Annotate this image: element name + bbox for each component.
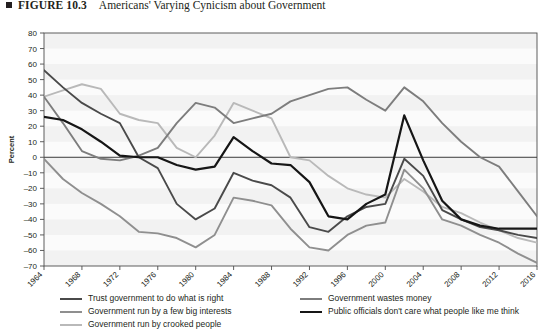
- x-axis-tick-label: 2016: [518, 270, 537, 289]
- legend-color-swatch: [300, 311, 322, 313]
- legend-item: Trust government to do what is right: [60, 292, 232, 305]
- legend-item: Public officials don't care what people …: [300, 305, 519, 318]
- legend-color-swatch: [300, 298, 322, 300]
- legend-column-right: Government wastes moneyPublic officials …: [300, 292, 519, 318]
- legend-column-left: Trust government to do what is rightGove…: [60, 292, 232, 331]
- legend-item: Government run by crooked people: [60, 318, 232, 331]
- x-axis-tick-label: 1992: [291, 270, 310, 289]
- y-axis-title: Percent: [7, 135, 16, 163]
- line-chart: 80706050403020100–10–20–30–40–50–60–7019…: [0, 0, 550, 300]
- legend-item: Government run by a few big interests: [60, 305, 232, 318]
- x-axis-tick-label: 1988: [253, 270, 272, 289]
- y-axis-tick-label: 50: [28, 76, 37, 85]
- legend-label: Trust government to do what is right: [88, 292, 223, 305]
- y-axis-tick-label: –60: [24, 246, 38, 255]
- x-axis-tick-label: 2000: [367, 270, 386, 289]
- chart-plot-area: 80706050403020100–10–20–30–40–50–60–7019…: [0, 0, 550, 300]
- figure-root: FIGURE 10.3 Americans' Varying Cynicism …: [0, 0, 550, 332]
- y-axis-tick-label: –30: [24, 200, 38, 209]
- y-axis-tick-label: 80: [28, 29, 37, 38]
- x-axis-tick-label: 1968: [63, 270, 82, 289]
- x-axis-tick-label: 2008: [443, 270, 462, 289]
- y-axis-tick-label: 70: [28, 45, 37, 54]
- y-axis-tick-label: 10: [28, 138, 37, 147]
- y-axis-tick-label: –10: [24, 169, 38, 178]
- y-axis-tick-label: –50: [24, 231, 38, 240]
- y-axis-tick-label: –40: [24, 215, 38, 224]
- x-axis-tick-label: 1984: [215, 270, 234, 289]
- y-axis-tick-label: –70: [24, 262, 38, 271]
- chart-legend: Trust government to do what is rightGove…: [0, 292, 550, 332]
- legend-label: Public officials don't care what people …: [328, 305, 519, 318]
- x-axis-tick-label: 2004: [405, 270, 424, 289]
- x-axis-tick-label: 2012: [481, 270, 500, 289]
- x-axis-tick-label: 1972: [101, 270, 120, 289]
- legend-item: Government wastes money: [300, 292, 519, 305]
- legend-label: Government run by crooked people: [88, 318, 221, 331]
- y-axis-tick-label: 30: [28, 107, 37, 116]
- x-axis-tick-label: 1996: [329, 270, 348, 289]
- x-axis-tick-label: 1964: [25, 270, 44, 289]
- legend-label: Government run by a few big interests: [88, 305, 232, 318]
- legend-color-swatch: [60, 324, 82, 326]
- y-axis-tick-label: –20: [24, 184, 38, 193]
- x-axis-tick-label: 1980: [177, 270, 196, 289]
- x-axis-tick-label: 1976: [139, 270, 158, 289]
- legend-color-swatch: [60, 311, 82, 313]
- y-axis-tick-label: 60: [28, 60, 37, 69]
- legend-label: Government wastes money: [328, 292, 431, 305]
- y-axis-tick-label: 0: [33, 153, 38, 162]
- y-axis-tick-label: 20: [28, 122, 37, 131]
- y-axis-tick-label: 40: [28, 91, 37, 100]
- legend-color-swatch: [60, 298, 82, 300]
